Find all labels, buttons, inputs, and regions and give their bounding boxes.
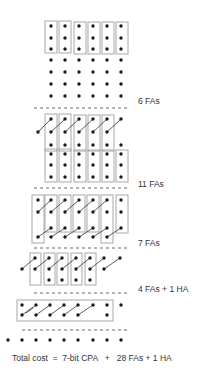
bit-dot [119,24,122,27]
bit-dot [49,47,52,50]
bit-dot [77,47,80,50]
bit-dot [48,338,51,341]
bit-dot [105,117,108,120]
bit-dot [119,175,122,178]
bit-dot [47,278,50,281]
bit-dot [119,163,122,166]
bit-dot [74,278,77,281]
bit-dot [91,210,94,213]
bit-dot [91,47,94,50]
bit-dot [20,313,23,316]
carry-connection [78,305,93,315]
bit-dot [77,70,80,73]
bit-dot [91,226,94,229]
bit-dot [49,82,52,85]
carry-connection [79,200,93,212]
bit-dot [63,163,66,166]
bit-dot [63,82,66,85]
bit-dot [34,313,37,316]
bit-dot [63,36,66,39]
bit-dot [34,303,37,306]
bit-dot [77,143,80,146]
bit-dot [63,117,66,120]
bit-dot [20,303,23,306]
bit-dot [105,313,108,316]
bit-dot [105,175,108,178]
bit-dot [76,313,79,316]
carry-connection [65,119,79,132]
bit-dot [33,256,36,259]
bit-dot [62,313,65,316]
bit-dot [91,338,94,341]
bit-dot [91,303,94,306]
bit-dot [119,58,122,61]
stage-label-11fas: 11 FAs [138,179,164,189]
carry-connection [64,305,78,315]
bit-dot [77,235,80,238]
bit-dot [48,303,51,306]
bit-dot [33,267,36,270]
fa-groupings [17,21,128,321]
bit-dot [91,82,94,85]
bit-dot [63,94,66,97]
bit-dot [74,267,77,270]
bit-dot [20,267,23,270]
bit-dot [102,267,105,270]
bit-dot [91,36,94,39]
bit-dot [48,313,51,316]
bit-dot [77,36,80,39]
bit-dot [49,163,52,166]
bit-dot [49,94,52,97]
bit-dot [77,130,80,133]
bit-dot [119,143,122,146]
bit-dot [119,226,122,229]
bit-dot [49,198,52,201]
bit-dot [91,58,94,61]
bit-dot [77,58,80,61]
bit-dot [91,143,94,146]
bit-dot [105,130,108,133]
adder-group-box [17,300,113,321]
bit-dot [49,36,52,39]
bit-dot [76,303,79,306]
bit-dot [77,152,80,155]
bit-dot [105,70,108,73]
dadda-reduction-diagram [0,0,210,375]
bit-dot [105,36,108,39]
bit-dot [63,198,66,201]
bit-dot [88,278,91,281]
bit-dot [105,58,108,61]
bit-dot [102,256,105,259]
bit-dot [63,152,66,155]
bit-dot [34,338,37,341]
bit-dot [105,198,108,201]
carry-connection [50,305,64,315]
bit-dot [105,338,108,341]
bit-dot [60,267,63,270]
bit-dot [88,267,91,270]
bit-dot [77,198,80,201]
bit-dot [91,198,94,201]
bit-dot [77,226,80,229]
stage-label-4fas-1ha: 4 FAs + 1 HA [138,284,188,294]
bit-dot [77,163,80,166]
bit-dot [63,24,66,27]
bit-dot [77,82,80,85]
bit-dot [105,94,108,97]
stage-label-6fas: 6 FAs [138,96,160,106]
bit-dot [77,94,80,97]
bit-dot [77,24,80,27]
total-cost-summary: Total cost = 7-bit CPA + 28 FAs + 1 HA [12,353,172,363]
bit-dot [91,24,94,27]
carry-connection [104,258,120,269]
carry-connection [90,258,104,269]
bit-dot [49,58,52,61]
bit-dot [62,338,65,341]
bit-dot [49,175,52,178]
bit-dot [20,338,23,341]
bit-dot [63,226,66,229]
bit-dot [118,256,121,259]
bit-dot [119,94,122,97]
bit-dot [49,235,52,238]
bit-dot [119,338,122,341]
